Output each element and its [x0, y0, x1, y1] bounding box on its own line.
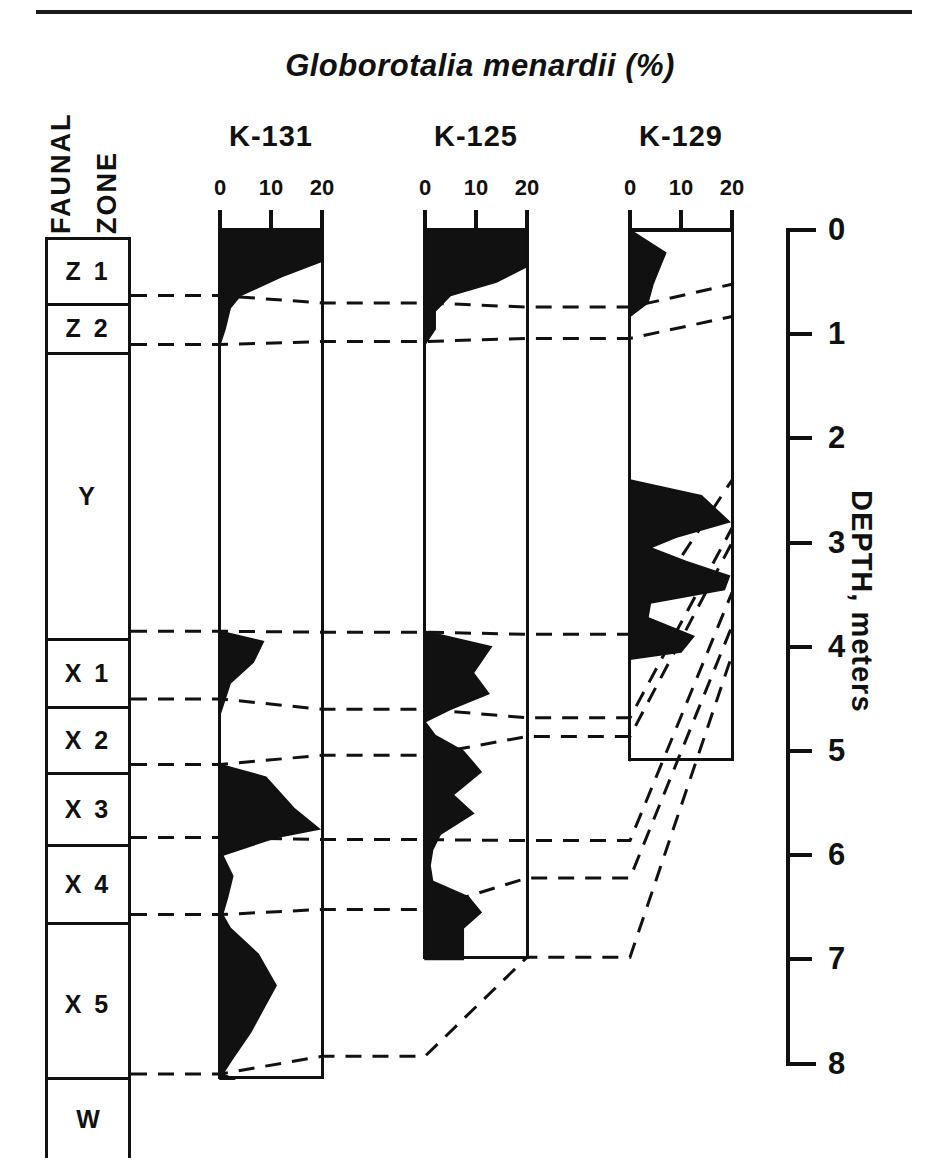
- depth-axis-tick: [786, 957, 812, 961]
- depth-axis-tick: [786, 1062, 816, 1066]
- correlation-lines-layer: [0, 0, 944, 1161]
- depth-axis-tick-label: 5: [828, 733, 845, 769]
- correlation-line: [131, 284, 732, 307]
- depth-axis-tick-label: 7: [828, 941, 845, 977]
- depth-axis-tick-label: 8: [828, 1046, 845, 1082]
- correlation-line: [131, 626, 732, 915]
- correlation-line: [131, 528, 732, 718]
- depth-axis-tick-label: 1: [828, 316, 845, 352]
- correlation-line: [131, 543, 732, 765]
- correlation-line: [131, 655, 732, 1074]
- depth-axis-tick: [786, 541, 812, 545]
- depth-axis-tick: [786, 645, 812, 649]
- depth-axis-tick: [786, 749, 812, 753]
- depth-axis-tick: [786, 436, 812, 440]
- correlation-line: [131, 480, 732, 634]
- depth-axis-tick-label: 2: [828, 420, 845, 456]
- depth-axis-tick: [786, 228, 816, 232]
- depth-axis-tick: [786, 853, 812, 857]
- depth-axis-tick-label: 4: [828, 629, 845, 665]
- depth-axis-title: DEPTH, meters: [845, 490, 878, 713]
- depth-axis-tick-label: 6: [828, 837, 845, 873]
- depth-axis-tick-label: 3: [828, 525, 845, 561]
- depth-axis-tick: [786, 332, 812, 336]
- depth-axis-tick-label: 0: [828, 212, 845, 248]
- correlation-line: [131, 317, 732, 345]
- figure-canvas: Globorotalia menardii (%) FAUNAL ZONE Z …: [0, 0, 944, 1161]
